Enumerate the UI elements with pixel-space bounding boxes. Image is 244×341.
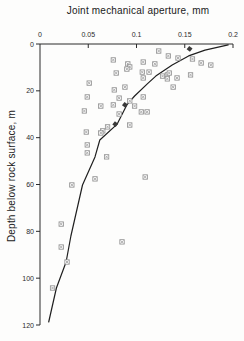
y-tick-label: 80: [26, 228, 34, 235]
scatter-point: [50, 286, 54, 290]
scatter-figure: Joint mechanical aperture, mm Depth belo…: [0, 0, 244, 341]
scatter-point: [117, 112, 121, 116]
y-tick-label: 120: [22, 322, 34, 329]
scatter-point: [114, 71, 118, 75]
scatter-point: [199, 61, 203, 65]
scatter-point: [171, 85, 175, 89]
scatter-point: [141, 76, 145, 80]
y-tick-label: 60: [26, 181, 34, 188]
scatter-point: [59, 245, 63, 249]
scatter-point: [160, 74, 164, 78]
scatter-point: [105, 125, 109, 129]
scatter-point: [125, 67, 129, 71]
scatter-point: [111, 103, 115, 107]
scatter-point: [153, 62, 157, 66]
y-tick-label: 20: [26, 87, 34, 94]
y-tick-label: 40: [26, 134, 34, 141]
scatter-point: [128, 99, 132, 103]
scatter-point: [167, 71, 171, 75]
scatter-point: [99, 131, 103, 135]
scatter-point: [117, 96, 121, 100]
scatter-point: [85, 95, 89, 99]
scatter-point: [176, 56, 180, 60]
scatter-point: [85, 151, 89, 155]
y-tick-label: 0: [30, 41, 34, 48]
scatter-point: [128, 123, 132, 127]
scatter-point: [143, 175, 147, 179]
scatter-point: [175, 76, 179, 80]
scatter-point: [65, 260, 69, 264]
scatter-point: [145, 110, 149, 114]
scatter-point: [165, 77, 169, 81]
curve-anchor-marker: [187, 46, 193, 52]
x-tick-label: 0.05: [81, 31, 95, 38]
scatter-point: [104, 155, 108, 159]
scatter-point: [93, 177, 97, 181]
x-tick-label: 0.1: [132, 31, 142, 38]
scatter-point: [123, 85, 127, 89]
scatter-point: [132, 104, 136, 108]
y-tick-label: 100: [22, 275, 34, 282]
scatter-point: [156, 49, 160, 53]
scatter-point: [59, 222, 63, 226]
scatter-point: [85, 143, 89, 147]
scatter-point: [84, 130, 88, 134]
scatter-point: [99, 104, 103, 108]
plot-area: 00.050.10.150.2020406080100120: [0, 0, 244, 341]
x-tick-label: 0.15: [178, 31, 192, 38]
x-tick-label: 0.2: [228, 31, 238, 38]
scatter-point: [87, 81, 91, 85]
scatter-point: [190, 57, 194, 61]
scatter-point: [70, 183, 74, 187]
curve-anchor-marker: [122, 102, 128, 108]
scatter-point: [141, 60, 145, 64]
scatter-point: [111, 58, 115, 62]
scatter-point: [139, 110, 143, 114]
scatter-point: [120, 240, 124, 244]
x-tick-label: 0: [38, 31, 42, 38]
scatter-point: [82, 109, 86, 113]
scatter-point: [112, 88, 116, 92]
curve-anchor-marker: [112, 121, 118, 127]
scatter-point: [166, 54, 170, 58]
scatter-point: [209, 63, 213, 67]
fit-curve: [49, 45, 229, 322]
scatter-point: [141, 95, 145, 99]
scatter-point: [147, 70, 151, 74]
scatter-point: [140, 70, 144, 74]
scatter-point: [188, 73, 192, 77]
